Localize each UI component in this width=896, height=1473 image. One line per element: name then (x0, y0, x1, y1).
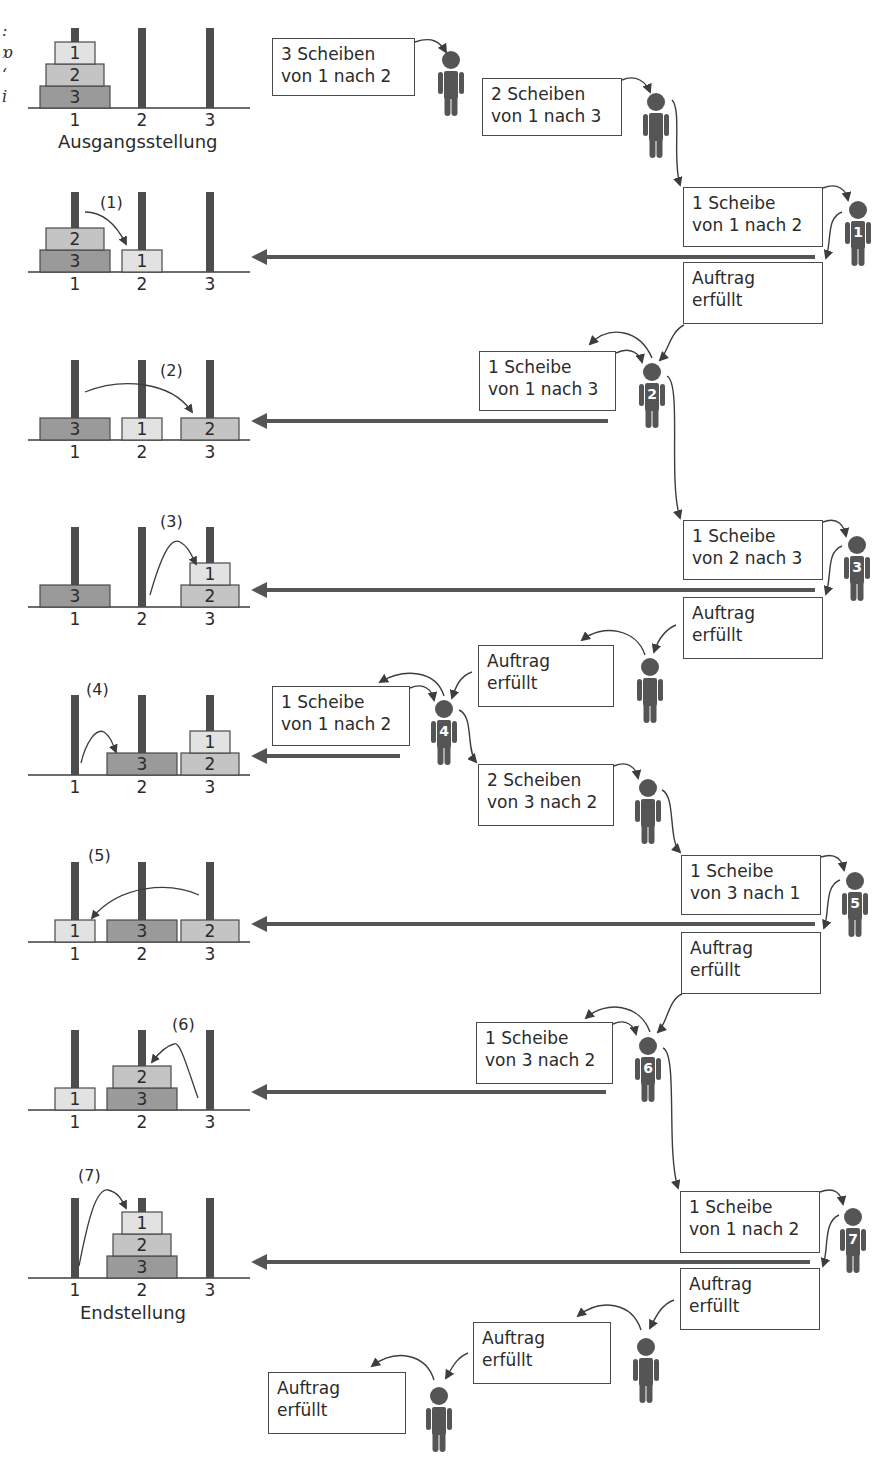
margin-glyph: i (2, 86, 13, 108)
message-box-m8: Auftragerfüllt (478, 645, 614, 707)
peg-1 (71, 695, 79, 775)
message-line: 1 Scheibe (692, 192, 814, 214)
message-line: erfüllt (487, 672, 605, 694)
disc-label: 1 (190, 731, 230, 753)
peg-label: 3 (200, 777, 220, 797)
message-line: von 3 nach 2 (485, 1049, 604, 1071)
message-box-m5: 1 Scheibevon 1 nach 3 (479, 351, 616, 411)
peg-2 (138, 28, 146, 108)
peg-label: 2 (132, 609, 152, 629)
message-box-m14: 1 Scheibevon 1 nach 2 (680, 1191, 820, 1253)
message-line: 1 Scheibe (692, 525, 814, 547)
message-line: von 2 nach 3 (692, 547, 814, 569)
disc-label: 2 (113, 1234, 171, 1256)
peg-label: 1 (65, 944, 85, 964)
message-box-m10: 2 Scheibenvon 3 nach 2 (478, 764, 614, 826)
peg-label: 2 (132, 1280, 152, 1300)
message-box-m1: 3 Scheibenvon 1 nach 2 (272, 38, 415, 96)
message-line: 2 Scheiben (487, 769, 605, 791)
message-line: von 3 nach 1 (690, 882, 812, 904)
agent-number-badge: 5 (848, 895, 862, 911)
disc-label: 1 (55, 1088, 95, 1110)
peg-label: 2 (132, 944, 152, 964)
message-box-m9: 1 Scheibevon 1 nach 2 (272, 686, 410, 746)
peg-3 (206, 1030, 214, 1110)
move-step-label: (6) (172, 1015, 195, 1034)
peg-label: 3 (200, 944, 220, 964)
peg-label: 3 (200, 442, 220, 462)
message-box-m2: 2 Scheibenvon 1 nach 3 (482, 78, 622, 136)
person-icon (438, 51, 464, 116)
agent-number-badge: 2 (645, 386, 659, 402)
move-step-label: (2) (160, 361, 183, 380)
disc-label: 2 (181, 585, 239, 607)
peg-3 (206, 1198, 214, 1278)
move-step-label: (7) (78, 1166, 101, 1185)
disc-label: 1 (122, 418, 162, 440)
peg-label: 1 (65, 274, 85, 294)
message-line: Auftrag (692, 267, 814, 289)
message-line: von 1 nach 3 (488, 378, 607, 400)
peg-label: 1 (65, 777, 85, 797)
margin-text-fragment: : ɒ ʻ i (2, 20, 13, 108)
message-line: erfüllt (482, 1349, 602, 1371)
agent-number-badge: 4 (437, 723, 451, 739)
message-line: 1 Scheibe (281, 691, 401, 713)
peg-2 (138, 527, 146, 607)
message-box-m11: 1 Scheibevon 3 nach 1 (681, 855, 821, 915)
person-icon (426, 1387, 452, 1452)
move-step-label: (5) (88, 846, 111, 865)
peg-label: 2 (132, 777, 152, 797)
peg-label: 1 (65, 110, 85, 130)
message-line: von 1 nach 2 (692, 214, 814, 236)
disc-label: 3 (107, 1088, 177, 1110)
message-line: Auftrag (690, 937, 812, 959)
message-line: Auftrag (482, 1327, 602, 1349)
message-line: 1 Scheibe (488, 356, 607, 378)
peg-label: 2 (132, 110, 152, 130)
message-line: erfüllt (692, 289, 814, 311)
message-line: Auftrag (689, 1273, 811, 1295)
disc-label: 1 (190, 563, 230, 585)
peg-label: 1 (65, 609, 85, 629)
caption-end: Endstellung (80, 1302, 186, 1323)
disc-label: 3 (40, 86, 110, 108)
disc-label: 2 (46, 228, 104, 250)
disc-label: 1 (55, 920, 95, 942)
message-box-m16: Auftragerfüllt (473, 1322, 611, 1384)
agent-number-badge: 6 (641, 1060, 655, 1076)
disc-label: 2 (46, 64, 104, 86)
peg-label: 2 (132, 442, 152, 462)
person-icon (643, 93, 669, 158)
message-line: erfüllt (692, 624, 814, 646)
message-line: 3 Scheiben (281, 43, 406, 65)
disc-label: 2 (181, 920, 239, 942)
disc-label: 2 (181, 418, 239, 440)
disc-label: 1 (122, 1212, 162, 1234)
margin-glyph: ɒ (2, 42, 13, 64)
message-line: von 1 nach 2 (689, 1218, 811, 1240)
message-line: Auftrag (692, 602, 814, 624)
peg-label: 1 (65, 442, 85, 462)
disc-label: 1 (55, 42, 95, 64)
message-line: von 1 nach 3 (491, 105, 613, 127)
message-line: erfüllt (277, 1399, 397, 1421)
disc-label: 3 (40, 585, 110, 607)
message-line: 1 Scheibe (689, 1196, 811, 1218)
message-line: erfüllt (690, 959, 812, 981)
message-line: 1 Scheibe (690, 860, 812, 882)
peg-label: 3 (200, 1112, 220, 1132)
peg-label: 1 (65, 1280, 85, 1300)
peg-label: 1 (65, 1112, 85, 1132)
message-box-m13: 1 Scheibevon 3 nach 2 (476, 1022, 613, 1084)
disc-label: 3 (107, 753, 177, 775)
message-line: von 3 nach 2 (487, 791, 605, 813)
message-box-m17: Auftragerfüllt (268, 1372, 406, 1434)
agent-number-badge: 1 (851, 224, 865, 240)
message-box-m3: 1 Scheibevon 1 nach 2 (683, 187, 823, 247)
margin-glyph: ʻ (2, 64, 13, 86)
person-icon (635, 779, 661, 844)
message-box-m7: Auftragerfüllt (683, 597, 823, 659)
message-box-m15: Auftragerfüllt (680, 1268, 820, 1330)
peg-1 (71, 1198, 79, 1278)
